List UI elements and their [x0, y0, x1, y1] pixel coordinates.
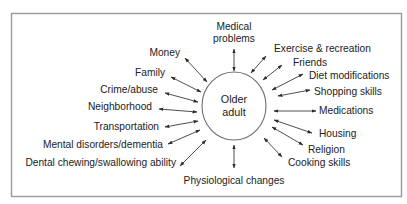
arrow-cooking [264, 138, 282, 157]
label-crime-abuse: Crime/abuse [100, 84, 158, 95]
arrow-dental [180, 140, 206, 166]
arrow-crime [165, 93, 198, 102]
arrow-mental [168, 130, 200, 144]
center-label-line2: adult [222, 106, 245, 118]
label-housing: Housing [319, 128, 357, 139]
label-exercise-recreation: Exercise & recreation [274, 43, 371, 54]
arrow-shopping [278, 90, 310, 96]
arrow-neighborhood [159, 109, 197, 112]
center-label-line1: Older [221, 93, 248, 105]
arrow-diet [272, 74, 303, 90]
label-religion: Religion [308, 144, 345, 155]
factors-diagram: Older adult Medical problems Exercise & … [0, 0, 407, 204]
label-family: Family [135, 67, 166, 78]
label-transportation: Transportation [94, 121, 159, 132]
arrow-family [171, 77, 201, 92]
label-friends: Friends [293, 57, 327, 68]
label-dental-ability: Dental chewing/swallowing ability [25, 157, 177, 168]
label-diet-modifications: Diet modifications [309, 70, 389, 81]
label-cooking-skills: Cooking skills [288, 157, 350, 168]
label-neighborhood: Neighborhood [88, 101, 152, 112]
label-medications: Medications [319, 105, 373, 116]
arrow-money [185, 58, 207, 82]
arrow-exercise [251, 56, 266, 73]
arrow-friends [263, 65, 282, 80]
arrow-transportation [165, 121, 198, 127]
label-physiological-changes: Physiological changes [184, 175, 285, 186]
label-shopping-skills: Shopping skills [314, 86, 382, 97]
label-money: Money [149, 47, 180, 58]
label-medical-problems-2: problems [213, 33, 255, 44]
label-mental-disorders: Mental disorders/dementia [43, 139, 163, 150]
label-medical-problems-1: Medical [216, 21, 251, 32]
arrow-religion [272, 127, 303, 145]
